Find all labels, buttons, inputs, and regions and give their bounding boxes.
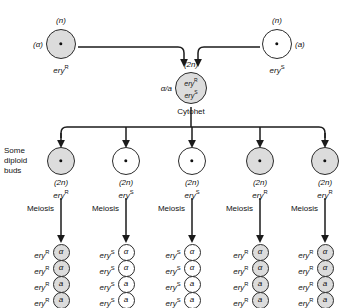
cytohet-caption: Cytohet (177, 107, 205, 116)
spore-4-1[interactable]: α (252, 244, 269, 261)
spore-1-3-genotype-label: eryR (34, 280, 49, 292)
nucleus-dot (124, 159, 127, 162)
spore-3-4-genotype-label: eryS (166, 296, 181, 308)
spore-mating-type-label: a (258, 280, 262, 288)
nucleus-dot (258, 159, 261, 162)
spore-2-4-genotype-label: eryS (100, 296, 115, 308)
spore-mating-type-label: α (258, 248, 263, 256)
bud-1-ploidy-label: (2n) (54, 178, 68, 187)
distribution-bus (61, 127, 325, 138)
nucleus-dot (59, 42, 62, 45)
meiosis-label-5: Meiosis (291, 204, 318, 213)
spore-mating-type-label: α (190, 248, 195, 256)
diploid-bud-2[interactable] (112, 147, 140, 175)
bud-5-genotype-label: eryR (317, 188, 332, 200)
spore-mating-type-label: α (124, 248, 129, 256)
spore-mating-type-label: α (323, 248, 328, 256)
spore-2-2[interactable]: α (118, 260, 135, 277)
nucleus-dot (323, 159, 326, 162)
spore-5-3-genotype-label: eryR (298, 280, 313, 292)
figure-canvas: (n)(α)eryR(n)(a)erySeryReryS(2n)α/aCytoh… (0, 0, 356, 308)
nucleus-dot (275, 42, 278, 45)
meiosis-label-3: Meiosis (158, 204, 185, 213)
meiosis-label-2: Meiosis (92, 204, 119, 213)
spore-3-2[interactable]: α (184, 260, 201, 277)
spore-mating-type-label: a (59, 280, 63, 288)
spore-2-3-genotype-label: eryS (100, 280, 115, 292)
spore-mating-type-label: α (190, 264, 195, 272)
parent-a-mating-type-label: (a) (295, 40, 305, 49)
spore-4-1-genotype-label: eryR (233, 248, 248, 260)
spore-3-3-genotype-label: eryS (166, 280, 181, 292)
spore-3-1-genotype-label: eryS (166, 248, 181, 260)
spore-5-1[interactable]: α (317, 244, 334, 261)
cytohet-ploidy-label: (2n) (184, 60, 198, 69)
nucleus-dot (59, 159, 62, 162)
cytohet-cell[interactable]: eryReryS (175, 72, 207, 104)
spore-mating-type-label: α (258, 264, 263, 272)
parent-alpha-mating-type-label: (α) (33, 40, 43, 49)
spore-mating-type-label: a (190, 280, 194, 288)
spore-1-4[interactable]: a (53, 292, 70, 308)
spore-2-1-genotype-label: eryS (100, 248, 115, 260)
fusion-line-left (78, 47, 184, 63)
spore-1-2-genotype-label: eryR (34, 264, 49, 276)
spore-3-4[interactable]: a (184, 292, 201, 308)
spore-2-3[interactable]: a (118, 276, 135, 293)
spore-5-2-genotype-label: eryR (298, 264, 313, 276)
bud-5-ploidy-label: (2n) (318, 178, 332, 187)
spore-3-3[interactable]: a (184, 276, 201, 293)
diploid-bud-4[interactable] (246, 147, 274, 175)
spore-mating-type-label: a (124, 296, 128, 304)
meiosis-label-1: Meiosis (27, 204, 54, 213)
bud-4-genotype-label: eryR (252, 188, 267, 200)
spore-5-4-genotype-label: eryR (298, 296, 313, 308)
spore-2-1[interactable]: α (118, 244, 135, 261)
spore-3-2-genotype-label: eryS (166, 264, 181, 276)
spore-mating-type-label: α (59, 248, 64, 256)
spore-mating-type-label: α (124, 264, 129, 272)
bud-2-genotype-label: eryS (119, 188, 134, 200)
parent-alpha[interactable] (46, 29, 76, 59)
spore-1-2[interactable]: α (53, 260, 70, 277)
spore-4-3[interactable]: a (252, 276, 269, 293)
diploid-bud-1[interactable] (47, 147, 75, 175)
cytohet-genotype-label: eryReryS (184, 76, 197, 99)
spore-mating-type-label: α (323, 264, 328, 272)
diploid-bud-3[interactable] (178, 147, 206, 175)
parent-alpha-genotype-label: eryR (53, 63, 68, 75)
spore-mating-type-label: a (323, 280, 327, 288)
spore-4-2-genotype-label: eryR (233, 264, 248, 276)
spore-mating-type-label: a (258, 296, 262, 304)
spore-4-4-genotype-label: eryR (233, 296, 248, 308)
parent-alpha-ploidy-label: (n) (56, 16, 66, 25)
cytohet-mating-type-label: α/a (161, 84, 172, 93)
fusion-line-right (198, 47, 260, 63)
spore-1-4-genotype-label: eryR (34, 296, 49, 308)
spore-4-3-genotype-label: eryR (233, 280, 248, 292)
parent-a-ploidy-label: (n) (272, 16, 282, 25)
spore-mating-type-label: α (59, 264, 64, 272)
spore-2-2-genotype-label: eryS (100, 264, 115, 276)
diploid-bud-5[interactable] (311, 147, 339, 175)
parent-a-genotype-label: eryS (270, 63, 285, 75)
bud-1-genotype-label: eryR (53, 188, 68, 200)
spore-1-1[interactable]: α (53, 244, 70, 261)
spore-5-1-genotype-label: eryR (298, 248, 313, 260)
spore-4-4[interactable]: a (252, 292, 269, 308)
spore-5-4[interactable]: a (317, 292, 334, 308)
parent-a[interactable] (262, 29, 292, 59)
spore-mating-type-label: a (190, 296, 194, 304)
spore-4-2[interactable]: α (252, 260, 269, 277)
spore-mating-type-label: a (323, 296, 327, 304)
spore-3-1[interactable]: α (184, 244, 201, 261)
bud-3-ploidy-label: (2n) (185, 178, 199, 187)
bud-3-genotype-label: eryS (185, 188, 200, 200)
bud-2-ploidy-label: (2n) (119, 178, 133, 187)
spore-2-4[interactable]: a (118, 292, 135, 308)
spore-5-2[interactable]: α (317, 260, 334, 277)
spore-mating-type-label: a (59, 296, 63, 304)
nucleus-dot (190, 159, 193, 162)
spore-5-3[interactable]: a (317, 276, 334, 293)
spore-1-3[interactable]: a (53, 276, 70, 293)
